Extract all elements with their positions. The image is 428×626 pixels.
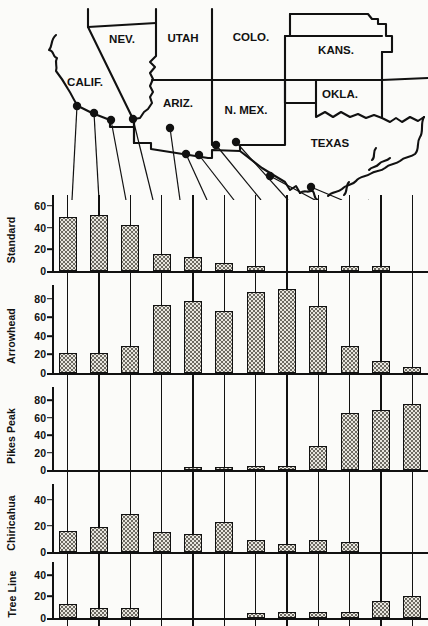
bar-leader-stem <box>318 484 319 540</box>
bar-leader-stem <box>98 387 99 470</box>
bar-panel-pikes-peak: Pikes Peak020406080 <box>0 387 428 484</box>
x-tick-mark <box>161 271 162 285</box>
y-tick-label: 20 <box>34 348 46 360</box>
y-axis: 02040 <box>22 484 52 562</box>
y-tick-label: 40 <box>34 330 46 342</box>
bar-leader-stem <box>286 562 287 612</box>
y-tick-label: 20 <box>34 447 46 459</box>
bar-leader-stem <box>192 484 193 534</box>
x-tick-mark <box>67 373 68 387</box>
x-tick-mark <box>98 373 99 387</box>
baseline <box>47 271 428 273</box>
bar-leader-stem <box>380 562 381 601</box>
bar-leader-stem <box>349 562 350 612</box>
bar-leader-stem <box>67 562 68 604</box>
x-tick-mark <box>318 373 319 387</box>
state-label-nmex: N. MEX. <box>225 104 268 116</box>
bar-leader-stem <box>67 387 68 470</box>
state-label-texas: TEXAS <box>311 137 350 149</box>
bar-leader-stem <box>98 484 99 527</box>
x-tick-mark <box>67 470 68 484</box>
bar-leader-stem <box>224 484 225 522</box>
y-tick-label: 0 <box>40 265 46 277</box>
bar-leader-stem <box>412 285 413 367</box>
bar-panel-tree-line: Tree Line02040 <box>0 562 428 626</box>
bar <box>309 446 327 470</box>
bar-leader-stem <box>130 484 131 514</box>
bar-leader-stem <box>161 562 162 618</box>
baseline <box>47 552 428 554</box>
state-label-okla: OKLA. <box>322 88 358 100</box>
x-tick-mark <box>380 271 381 285</box>
bar <box>403 404 421 470</box>
bar <box>215 263 233 271</box>
bar <box>215 311 233 373</box>
state-label-kans: KANS. <box>318 44 354 56</box>
bar-leader-stem <box>192 562 193 618</box>
bar-leader-stem <box>255 387 256 466</box>
bar-leader-stem <box>67 484 68 531</box>
bar <box>59 604 77 618</box>
bar-leader-stem <box>130 387 131 470</box>
panel-row-label-text: Standard <box>5 217 17 263</box>
leader-lines <box>72 106 369 200</box>
x-tick-mark <box>67 271 68 285</box>
bar <box>341 413 359 470</box>
y-tick-label: 80 <box>34 394 46 406</box>
bar-leader-stem <box>412 195 413 271</box>
bar-leader-stem <box>224 285 225 311</box>
bar <box>90 215 108 271</box>
bar <box>184 534 202 552</box>
map-panel: NEV. UTAH COLO. KANS. CALIF. ARIZ. N. ME… <box>0 0 428 200</box>
panel-row-label: Arrowhead <box>0 285 22 387</box>
bar <box>59 217 77 271</box>
panel-row-label: Standard <box>0 195 22 285</box>
bar-panel-standard: Standard0204060 <box>0 195 428 285</box>
y-axis-spine <box>52 285 54 373</box>
bar <box>403 596 421 618</box>
bar <box>215 522 233 552</box>
plot-area <box>52 285 428 387</box>
panel-row-label-text: Tree Line <box>5 570 17 617</box>
bar-leader-stem <box>130 285 131 346</box>
panel-row-label-text: Pikes Peak <box>5 408 17 464</box>
bar-panel-arrowhead: Arrowhead020406080 <box>0 285 428 387</box>
bar <box>59 531 77 552</box>
y-tick-label: 40 <box>34 429 46 441</box>
bar <box>90 353 108 373</box>
bar-leader-stem <box>67 195 68 217</box>
bar <box>341 346 359 373</box>
baseline <box>47 470 428 472</box>
bar-leader-stem <box>380 484 381 552</box>
figure-page: NEV. UTAH COLO. KANS. CALIF. ARIZ. N. ME… <box>0 0 428 626</box>
panel-row-label: Tree Line <box>0 562 22 626</box>
y-tick-label: 0 <box>40 546 46 558</box>
x-tick-mark <box>286 373 287 387</box>
bar-leader-stem <box>286 484 287 544</box>
y-tick-label: 20 <box>34 590 46 602</box>
x-tick-mark <box>349 373 350 387</box>
bar-leader-stem <box>130 195 131 225</box>
y-axis-spine <box>52 562 54 618</box>
bar <box>372 601 390 618</box>
bar-leader-stem <box>192 285 193 301</box>
y-axis: 02040 <box>22 562 52 626</box>
site-marker <box>195 151 203 159</box>
bar-leader-stem <box>412 484 413 552</box>
bar <box>247 292 265 373</box>
site-marker <box>107 116 115 124</box>
x-tick-mark <box>318 271 319 285</box>
x-tick-mark <box>192 470 193 484</box>
y-tick-label: 60 <box>34 412 46 424</box>
y-tick-label: 0 <box>40 367 46 379</box>
site-marker <box>266 172 274 180</box>
x-tick-mark <box>380 470 381 484</box>
y-axis-spine <box>52 387 54 470</box>
x-tick-mark <box>412 470 413 484</box>
x-tick-mark <box>349 470 350 484</box>
bar <box>341 542 359 552</box>
bar-leader-stem <box>318 562 319 612</box>
x-tick-mark <box>192 373 193 387</box>
y-tick-label: 40 <box>34 569 46 581</box>
plot-area <box>52 387 428 484</box>
